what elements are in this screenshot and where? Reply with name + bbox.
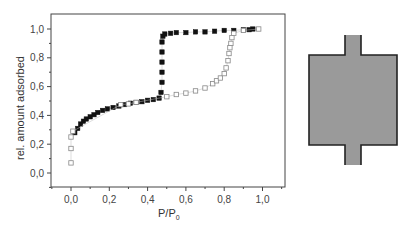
- ink-bottle-pore-diagram: [0, 0, 410, 229]
